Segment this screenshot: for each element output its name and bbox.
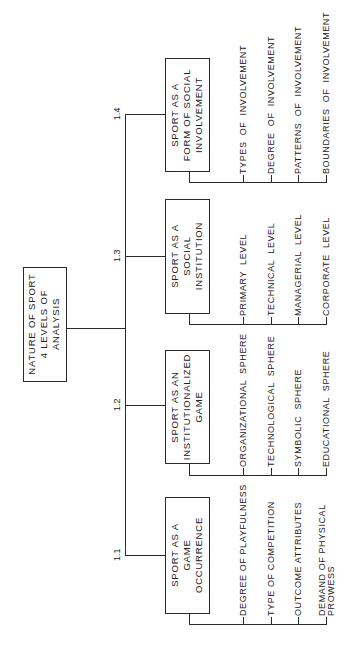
tick bbox=[326, 317, 327, 325]
leaf-item-1-3-2: TECHNICAL LEVEL bbox=[267, 223, 276, 316]
label-line: SOCIAL bbox=[181, 201, 193, 311]
root-line-1: NATURE OF SPORT bbox=[26, 269, 38, 379]
level-label-1-4: SPORT AS A FORM OF SOCIAL INVOLVEMENT bbox=[169, 60, 205, 170]
leaf-item-1-1-3: OUTCOME ATTRIBUTES bbox=[294, 502, 303, 616]
tick bbox=[298, 175, 299, 183]
label-line: GAME bbox=[193, 352, 205, 462]
level-number-1-3: 1.3 bbox=[112, 249, 122, 262]
drop-1-4 bbox=[189, 171, 190, 182]
tick bbox=[243, 468, 244, 476]
leaf-item-1-1-2: TYPE OF COMPETITION bbox=[267, 501, 276, 616]
branch-1-3 bbox=[125, 256, 165, 257]
root-connector bbox=[66, 328, 126, 329]
tick bbox=[243, 317, 244, 325]
tick bbox=[326, 468, 327, 476]
tick bbox=[271, 468, 272, 476]
label-line: INSTITUTIONALIZED bbox=[181, 352, 193, 462]
drop-1-1 bbox=[189, 613, 190, 624]
leaf-item-1-1-4: DEMAND OF PHYSICAL PROWESS bbox=[318, 504, 336, 616]
trunk-line bbox=[125, 114, 126, 556]
level-number-1-4: 1.4 bbox=[112, 107, 122, 120]
leaf-item-1-2-4: EDUCATIONAL SPHERE bbox=[322, 351, 331, 467]
tick bbox=[326, 617, 327, 625]
tick bbox=[326, 175, 327, 183]
bus-1-1 bbox=[189, 624, 327, 625]
tick bbox=[271, 617, 272, 625]
root-line-3: ANALYSIS bbox=[50, 269, 62, 379]
label-line: GAME bbox=[181, 499, 193, 611]
label-line: SPORT AS A bbox=[169, 499, 181, 611]
label-line: OCCURRENCE bbox=[193, 499, 205, 611]
leaf-item-1-4-1: TYPES OF INVOLVEMENT bbox=[239, 45, 248, 174]
level-label-1-3: SPORT AS A SOCIAL INSTITUTION bbox=[169, 201, 205, 311]
branch-1-1 bbox=[125, 555, 165, 556]
bus-1-2 bbox=[189, 475, 327, 476]
leaf-item-1-3-3: MANAGERIAL LEVEL bbox=[294, 214, 303, 316]
branch-1-2 bbox=[125, 405, 165, 406]
label-line: SPORT AS A bbox=[169, 60, 181, 170]
tick bbox=[243, 617, 244, 625]
label-line: INSTITUTION bbox=[193, 201, 205, 311]
bus-1-3 bbox=[189, 324, 327, 325]
tick bbox=[243, 175, 244, 183]
leaf-item-1-1-1: DEGREE OF PLAYFULNESS bbox=[239, 484, 248, 616]
leaf-item-1-4-4: BOUNDARIES OF INVOLVEMENT bbox=[322, 12, 331, 174]
branch-1-4 bbox=[125, 114, 165, 115]
leaf-item-1-2-2: TECHNOLOGICAL SPHERE bbox=[267, 336, 276, 467]
tick bbox=[298, 468, 299, 476]
level-label-1-2: SPORT AS AN INSTITUTIONALIZED GAME bbox=[169, 352, 205, 462]
label-line: FORM OF SOCIAL bbox=[181, 60, 193, 170]
level-number-1-2: 1.2 bbox=[112, 398, 122, 411]
level-number-1-1: 1.1 bbox=[112, 548, 122, 561]
leaf-item-1-4-2: DEGREE OF INVOLVEMENT bbox=[267, 36, 276, 174]
tick bbox=[271, 317, 272, 325]
root-line-2: 4 LEVELS OF bbox=[38, 269, 50, 379]
drop-1-2 bbox=[189, 463, 190, 475]
drop-1-3 bbox=[189, 313, 190, 324]
leaf-item-1-2-3: SYMBOLIC SPHERE bbox=[294, 369, 303, 467]
tick bbox=[298, 317, 299, 325]
tick bbox=[271, 175, 272, 183]
label-line: SPORT AS AN bbox=[169, 352, 181, 462]
leaf-item-1-2-1: ORGANIZATIONAL SPHERE bbox=[239, 333, 248, 467]
leaf-item-1-3-1: PRIMARY LEVEL bbox=[239, 234, 248, 316]
root-node-label: NATURE OF SPORT 4 LEVELS OF ANALYSIS bbox=[26, 269, 62, 379]
level-label-1-1: SPORT AS A GAME OCCURRENCE bbox=[169, 499, 205, 611]
bus-1-4 bbox=[189, 182, 327, 183]
leaf-item-1-4-3: PATTERNS OF INVOLVEMENT bbox=[294, 26, 303, 174]
leaf-item-1-3-4: CORPORATE LEVEL bbox=[322, 217, 331, 316]
label-line: INVOLVEMENT bbox=[193, 60, 205, 170]
tick bbox=[298, 617, 299, 625]
label-line: SPORT AS A bbox=[169, 201, 181, 311]
